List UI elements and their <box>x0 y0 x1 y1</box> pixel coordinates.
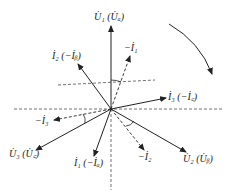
label-u2: U̇₂ (U̇ᵦ) <box>183 154 213 164</box>
label-i3: İ₃ (−İ꜀) <box>168 92 197 102</box>
label-neg-i2: −İ₂ <box>138 152 152 162</box>
phasor-i3 <box>111 98 166 109</box>
angle-arc-u1 <box>111 80 121 82</box>
label-i2: İ₂ (−İᵦ) <box>52 51 81 61</box>
label-neg-i1: −İ₁ <box>124 43 138 53</box>
angle-arc-u3 <box>83 114 85 123</box>
phasor-i2 <box>78 64 111 109</box>
dashed-ref-line <box>58 80 155 85</box>
phasor-neg-i3 <box>54 109 111 120</box>
phasor-diagram: U̇₁ (U̇ₐ) −İ₁ İ₂ (−İᵦ) İ₃ (−İ꜀) −İ₃ U̇₃ … <box>0 0 229 194</box>
rotation-direction-arrow <box>169 24 212 74</box>
angle-arcs <box>83 80 134 126</box>
phasor-u2 <box>111 109 186 152</box>
label-i1: İ₁ (−İₐ) <box>74 158 103 168</box>
phasor-i1 <box>94 109 111 156</box>
label-u1: U̇₁ (U̇ₐ) <box>94 12 124 22</box>
phasor-neg-i2 <box>111 109 144 150</box>
label-u3: U̇₃ (U̇꜀) <box>9 149 39 159</box>
label-neg-i3: −İ₃ <box>35 116 49 126</box>
phasor-neg-i1 <box>111 56 130 109</box>
